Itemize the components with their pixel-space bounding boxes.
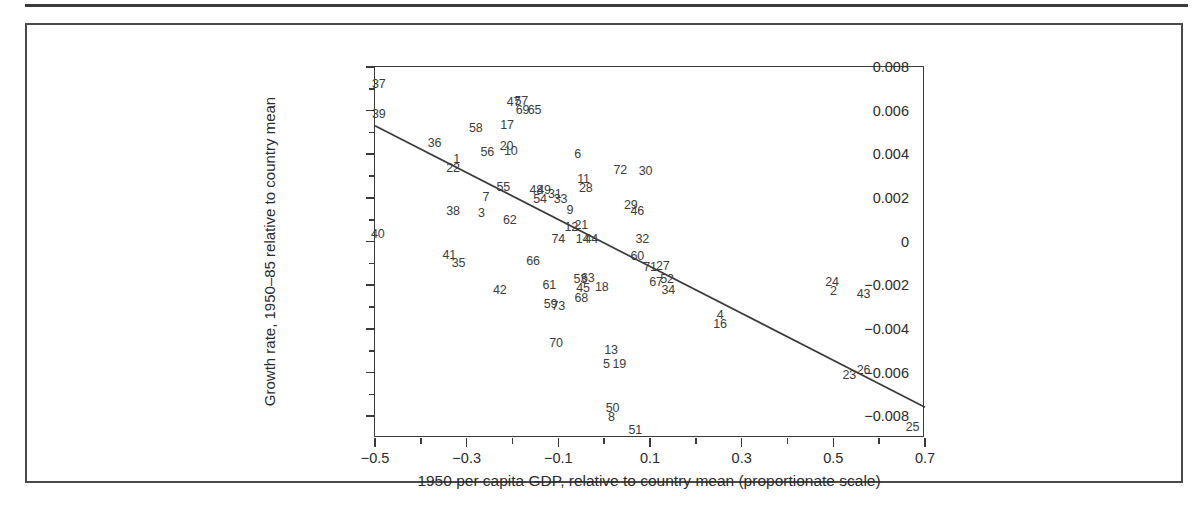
data-point-label: 68 bbox=[574, 292, 588, 305]
data-point-label: 3 bbox=[478, 207, 485, 220]
y-tick-major bbox=[366, 415, 375, 417]
data-point-label: 51 bbox=[629, 423, 643, 436]
y-tick-label: −0.006 bbox=[864, 365, 909, 381]
x-tick-minor bbox=[787, 438, 789, 444]
data-point-label: 61 bbox=[542, 279, 556, 292]
x-tick-major bbox=[649, 438, 651, 447]
data-point-label: 22 bbox=[446, 162, 460, 175]
y-tick-minor bbox=[369, 219, 375, 221]
data-point-label: 13 bbox=[604, 344, 618, 357]
data-point-label: 72 bbox=[613, 164, 627, 177]
y-tick-minor bbox=[369, 175, 375, 177]
y-tick-major bbox=[366, 241, 375, 243]
data-point-label: 28 bbox=[579, 182, 593, 195]
x-tick-label: 0.1 bbox=[640, 450, 660, 466]
y-tick-label: 0.006 bbox=[873, 103, 909, 119]
data-point-label: 21 bbox=[574, 219, 588, 232]
y-tick-major bbox=[366, 328, 375, 330]
x-tick-minor bbox=[512, 438, 514, 444]
regression-line bbox=[375, 67, 925, 438]
x-tick-label: 0.5 bbox=[823, 450, 843, 466]
data-point-label: 44 bbox=[585, 233, 599, 246]
x-tick-major bbox=[741, 438, 743, 447]
y-tick-minor bbox=[369, 263, 375, 265]
y-tick-label: 0.004 bbox=[873, 146, 909, 162]
data-point-label: 32 bbox=[635, 232, 649, 245]
data-point-label: 58 bbox=[469, 122, 483, 135]
x-tick-major bbox=[833, 438, 835, 447]
y-tick-label: −0.002 bbox=[864, 277, 909, 293]
data-point-label: 8 bbox=[608, 411, 615, 424]
data-point-label: 27 bbox=[656, 260, 670, 273]
data-point-label: 74 bbox=[552, 233, 566, 246]
data-point-label: 36 bbox=[428, 137, 442, 150]
data-point-label: 60 bbox=[630, 250, 644, 263]
x-tick-minor bbox=[878, 438, 880, 444]
y-tick-minor bbox=[369, 350, 375, 352]
y-tick-minor bbox=[369, 132, 375, 134]
data-point-label: 7 bbox=[483, 191, 490, 204]
plot-area: 3739403612238413558563755174720105769656… bbox=[374, 66, 924, 437]
figure-outer-frame: Growth rate, 1950–85 relative to country… bbox=[25, 23, 1183, 483]
data-point-label: 66 bbox=[526, 254, 540, 267]
y-tick-label: 0.002 bbox=[873, 190, 909, 206]
data-point-label: 55 bbox=[497, 181, 511, 194]
data-point-label: 73 bbox=[552, 300, 566, 313]
x-tick-label: −0.3 bbox=[452, 450, 481, 466]
x-tick-major bbox=[924, 438, 926, 447]
plot-inner: 3739403612238413558563755174720105769656… bbox=[375, 67, 923, 436]
data-point-label: 70 bbox=[549, 337, 563, 350]
x-tick-minor bbox=[603, 438, 605, 444]
y-tick-major bbox=[366, 197, 375, 199]
data-point-label: 65 bbox=[528, 104, 542, 117]
y-tick-major bbox=[366, 284, 375, 286]
y-tick-major bbox=[366, 372, 375, 374]
y-tick-minor bbox=[369, 306, 375, 308]
page-top-rule bbox=[25, 4, 1188, 7]
y-tick-major bbox=[366, 153, 375, 155]
data-point-label: 6 bbox=[574, 148, 581, 161]
data-point-label: 56 bbox=[481, 145, 495, 158]
y-tick-minor bbox=[369, 394, 375, 396]
y-tick-label: 0 bbox=[901, 234, 909, 250]
data-point-label: 19 bbox=[613, 357, 627, 370]
data-point-label: 5 bbox=[603, 357, 610, 370]
x-tick-major bbox=[374, 438, 376, 447]
data-point-label: 71 bbox=[643, 261, 657, 274]
x-tick-label: 0.3 bbox=[732, 450, 752, 466]
data-point-label: 30 bbox=[639, 164, 653, 177]
y-tick-label: −0.008 bbox=[864, 408, 909, 424]
y-tick-minor bbox=[369, 88, 375, 90]
x-tick-major bbox=[466, 438, 468, 447]
data-point-label: 16 bbox=[713, 317, 727, 330]
data-point-label: 62 bbox=[503, 214, 517, 227]
data-point-label: 34 bbox=[662, 284, 676, 297]
y-axis-title: Growth rate, 1950–85 relative to country… bbox=[259, 66, 281, 437]
x-axis-title: 1950 per capita GDP, relative to country… bbox=[374, 472, 924, 490]
data-point-label: 33 bbox=[554, 193, 568, 206]
data-point-label: 42 bbox=[493, 283, 507, 296]
data-point-label: 54 bbox=[533, 193, 547, 206]
data-point-label: 35 bbox=[452, 257, 466, 270]
data-point-label: 17 bbox=[500, 119, 514, 132]
x-tick-label: 0.7 bbox=[915, 450, 935, 466]
data-point-label: 18 bbox=[595, 281, 609, 294]
x-tick-label: −0.5 bbox=[361, 450, 390, 466]
data-point-label: 9 bbox=[566, 203, 573, 216]
data-point-label: 46 bbox=[630, 205, 644, 218]
y-tick-label: 0.008 bbox=[873, 59, 909, 75]
y-tick-major bbox=[366, 110, 375, 112]
data-point-label: 40 bbox=[371, 228, 385, 241]
x-tick-label: −0.1 bbox=[544, 450, 573, 466]
x-tick-minor bbox=[420, 438, 422, 444]
y-tick-major bbox=[366, 66, 375, 68]
data-point-label: 10 bbox=[504, 145, 518, 158]
x-tick-major bbox=[558, 438, 560, 447]
data-point-label: 2 bbox=[830, 285, 837, 298]
data-point-label: 38 bbox=[446, 205, 460, 218]
x-tick-minor bbox=[695, 438, 697, 444]
data-point-label: 23 bbox=[843, 369, 857, 382]
y-tick-label: −0.004 bbox=[864, 321, 909, 337]
